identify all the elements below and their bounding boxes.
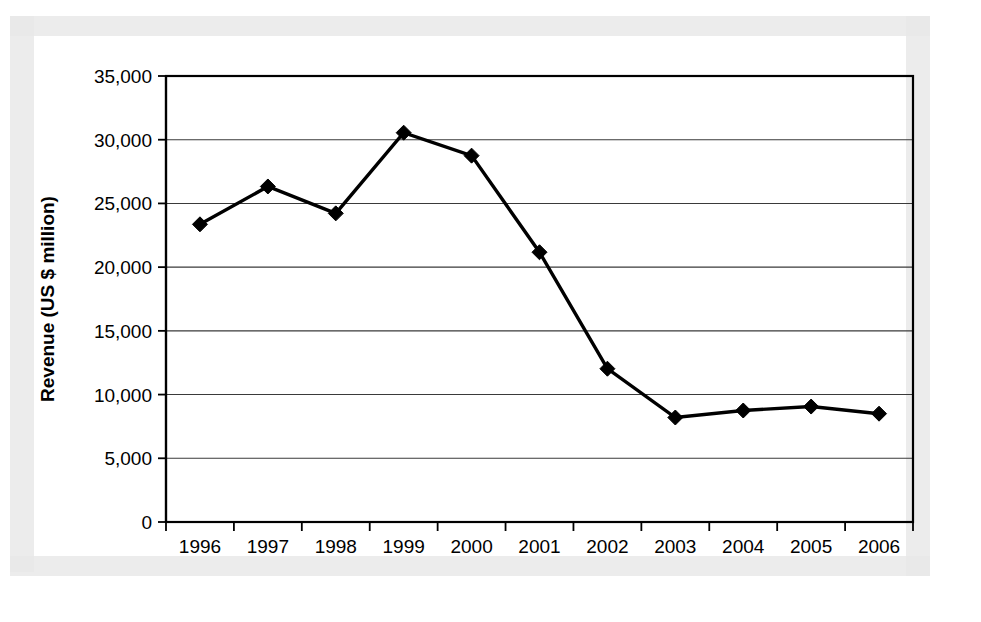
revenue-series bbox=[192, 125, 886, 425]
revenue-markers bbox=[192, 125, 886, 425]
plot-area-border bbox=[166, 76, 913, 522]
revenue-line-chart: 05,00010,00015,00020,00025,00030,00035,0… bbox=[0, 0, 981, 622]
y-axis-tick-labels: 05,00010,00015,00020,00025,00030,00035,0… bbox=[94, 66, 152, 533]
x-axis-tick-marks bbox=[166, 522, 913, 531]
x-axis-tick-label: 2006 bbox=[858, 536, 900, 557]
chart-canvas: 05,00010,00015,00020,00025,00030,00035,0… bbox=[0, 0, 981, 622]
y-axis-tick-label: 30,000 bbox=[94, 130, 152, 151]
y-axis-tick-label: 0 bbox=[141, 512, 152, 533]
x-axis-tick-label: 2002 bbox=[586, 536, 628, 557]
data-point-marker bbox=[260, 179, 275, 194]
x-axis-tick-label: 2000 bbox=[450, 536, 492, 557]
x-axis-tick-label: 2005 bbox=[790, 536, 832, 557]
data-point-marker bbox=[736, 403, 751, 418]
gridlines bbox=[166, 76, 913, 522]
revenue-line bbox=[200, 133, 879, 418]
x-axis-tick-label: 1996 bbox=[179, 536, 221, 557]
y-axis-tick-label: 35,000 bbox=[94, 66, 152, 87]
x-axis-tick-label: 1997 bbox=[247, 536, 289, 557]
y-axis-tick-label: 10,000 bbox=[94, 385, 152, 406]
data-point-marker bbox=[804, 399, 819, 414]
x-axis-tick-label: 1999 bbox=[383, 536, 425, 557]
data-point-marker bbox=[872, 406, 887, 421]
y-axis-tick-marks bbox=[158, 76, 166, 522]
y-axis-tick-label: 5,000 bbox=[104, 448, 152, 469]
x-axis-tick-labels: 1996199719981999200020012002200320042005… bbox=[179, 536, 900, 557]
y-axis-title: Revenue (US $ million) bbox=[37, 196, 58, 402]
y-axis-tick-label: 25,000 bbox=[94, 193, 152, 214]
x-axis-tick-label: 1998 bbox=[315, 536, 357, 557]
y-axis-tick-label: 15,000 bbox=[94, 321, 152, 342]
data-point-marker bbox=[192, 217, 207, 232]
x-axis-tick-label: 2004 bbox=[722, 536, 765, 557]
x-axis-tick-label: 2003 bbox=[654, 536, 696, 557]
y-axis-tick-label: 20,000 bbox=[94, 257, 152, 278]
x-axis-tick-label: 2001 bbox=[518, 536, 560, 557]
